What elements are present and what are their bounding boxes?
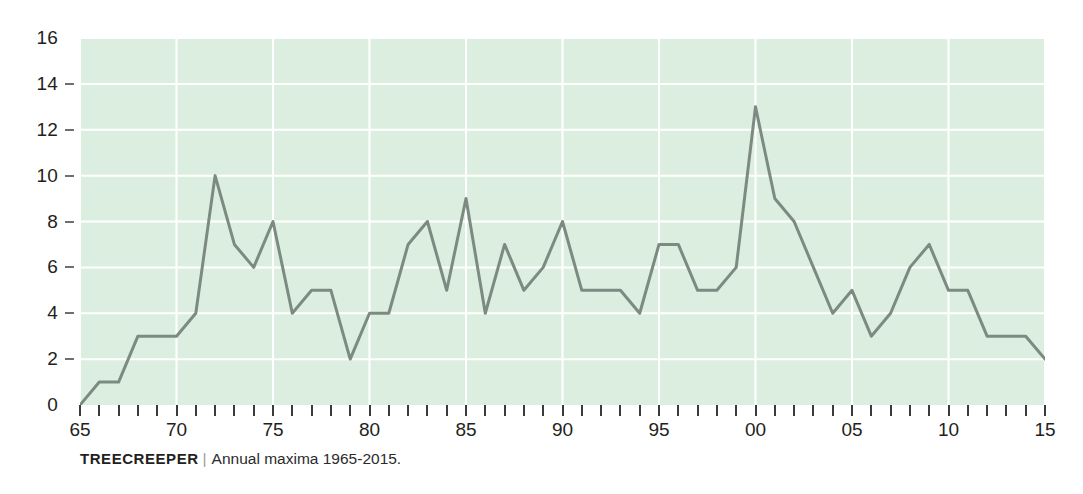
x-axis-tick-mark	[369, 405, 371, 416]
x-axis-tick-mark	[890, 405, 892, 416]
x-axis-tick-mark	[330, 405, 332, 416]
y-axis-tick: 2	[47, 349, 80, 369]
x-axis-tick-mark	[407, 405, 409, 416]
y-axis-tick: 12	[36, 120, 80, 140]
x-axis-tick-label: 65	[69, 419, 90, 441]
x-axis-tick-mark	[176, 405, 178, 416]
x-axis-tick-mark	[1005, 405, 1007, 416]
x-axis-tick-mark	[735, 405, 737, 416]
x-axis-tick-label: 95	[648, 419, 669, 441]
x-axis-tick-mark	[137, 405, 139, 416]
y-axis-tick: 6	[47, 257, 80, 277]
x-axis-tick-mark	[214, 405, 216, 416]
x-axis-tick-mark	[870, 405, 872, 416]
y-axis-tick: 14	[36, 74, 80, 94]
x-axis-tick-mark	[349, 405, 351, 416]
x-axis-tick-label: 90	[552, 419, 573, 441]
x-axis-tick-mark	[812, 405, 814, 416]
y-axis-tick-mark	[65, 129, 74, 131]
y-axis-tick-label: 16	[36, 27, 58, 49]
x-axis-tick-label: 70	[166, 419, 187, 441]
x-axis-tick-mark	[909, 405, 911, 416]
y-axis: 0246810121416	[0, 0, 80, 420]
x-axis-tick-mark	[542, 405, 544, 416]
x-axis-tick-mark	[79, 405, 81, 416]
y-axis-tick-mark	[65, 221, 74, 223]
x-axis-tick-label: 00	[745, 419, 766, 441]
chart-caption: TREECREEPER|Annual maxima 1965-2015.	[80, 450, 401, 468]
y-axis-tick-label: 0	[47, 394, 58, 416]
x-axis-tick-mark	[600, 405, 602, 416]
x-axis-tick-label: 05	[841, 419, 862, 441]
treecreeper-chart-figure: 0246810121416 6570758085909500051015 TRE…	[0, 0, 1083, 494]
x-axis-tick-mark	[716, 405, 718, 416]
y-axis-tick-label: 8	[47, 211, 58, 233]
x-axis-tick-mark	[948, 405, 950, 416]
y-axis-tick-label: 6	[47, 256, 58, 278]
x-axis-tick-mark	[156, 405, 158, 416]
x-axis-tick-mark	[928, 405, 930, 416]
y-axis-tick-label: 12	[36, 119, 58, 141]
x-axis-tick-label: 10	[938, 419, 959, 441]
x-axis-tick-mark	[1025, 405, 1027, 416]
caption-species-name: TREECREEPER	[80, 450, 199, 467]
y-axis-tick-label: 2	[47, 348, 58, 370]
line-chart-svg	[80, 38, 1045, 405]
x-axis-tick-mark	[1044, 405, 1046, 416]
x-axis-tick-mark	[195, 405, 197, 416]
x-axis-tick-mark	[388, 405, 390, 416]
x-axis-tick-mark	[677, 405, 679, 416]
x-axis-tick-mark	[581, 405, 583, 416]
x-axis-tick-mark	[793, 405, 795, 416]
y-axis-tick-mark	[65, 358, 74, 360]
caption-description: Annual maxima 1965-2015.	[212, 450, 402, 467]
y-axis-tick-mark	[65, 312, 74, 314]
x-axis-tick-mark	[967, 405, 969, 416]
y-axis-tick-mark	[65, 37, 74, 39]
x-axis-tick-mark	[291, 405, 293, 416]
x-axis-tick-mark	[832, 405, 834, 416]
plot-area	[80, 38, 1045, 405]
y-axis-tick-mark	[65, 404, 74, 406]
x-axis-tick-mark	[658, 405, 660, 416]
y-axis-tick: 4	[47, 303, 80, 323]
x-axis-tick-label: 85	[455, 419, 476, 441]
y-axis-tick-label: 4	[47, 302, 58, 324]
y-axis-tick-label: 10	[36, 165, 58, 187]
y-axis-tick: 10	[36, 166, 80, 186]
x-axis-tick-mark	[484, 405, 486, 416]
x-axis-tick-mark	[311, 405, 313, 416]
y-axis-tick: 0	[47, 395, 80, 415]
x-axis-tick-mark	[619, 405, 621, 416]
x-axis-tick-label: 75	[262, 419, 283, 441]
y-axis-tick-label: 14	[36, 73, 58, 95]
x-axis-tick-mark	[504, 405, 506, 416]
y-axis-tick: 16	[36, 28, 80, 48]
y-axis-tick: 8	[47, 212, 80, 232]
x-axis-tick-mark	[118, 405, 120, 416]
x-axis-tick-mark	[446, 405, 448, 416]
x-axis-tick-mark	[986, 405, 988, 416]
x-axis-tick-mark	[639, 405, 641, 416]
x-axis-tick-label: 80	[359, 419, 380, 441]
x-axis-tick-mark	[755, 405, 757, 416]
x-axis-tick-mark	[233, 405, 235, 416]
x-axis-tick-mark	[523, 405, 525, 416]
x-axis-tick-mark	[465, 405, 467, 416]
y-axis-tick-mark	[65, 83, 74, 85]
x-axis-tick-mark	[272, 405, 274, 416]
x-axis-tick-mark	[697, 405, 699, 416]
x-axis-tick-mark	[562, 405, 564, 416]
x-axis-tick-mark	[98, 405, 100, 416]
y-axis-tick-mark	[65, 266, 74, 268]
x-axis-tick-mark	[851, 405, 853, 416]
x-axis-tick-mark	[426, 405, 428, 416]
x-axis-tick-mark	[774, 405, 776, 416]
y-axis-tick-mark	[65, 175, 74, 177]
caption-separator: |	[203, 450, 207, 467]
x-axis-tick-mark	[253, 405, 255, 416]
x-axis-tick-label: 15	[1034, 419, 1055, 441]
